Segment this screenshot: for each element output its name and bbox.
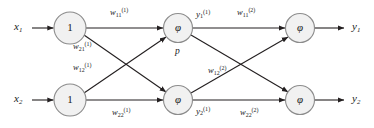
input-x1: x1 — [14, 21, 22, 34]
bias-node-bottom-label: 1 — [60, 93, 80, 105]
edge-bias-bottom-to-hidden-top — [84, 37, 166, 93]
hidden-node-top-label: φ — [168, 21, 188, 33]
output-node-bottom-label: φ — [290, 93, 310, 105]
output-node-top-label: φ — [290, 21, 310, 33]
hidden-output-y2: y2(1) — [196, 106, 210, 117]
input-x2: x2 — [14, 93, 22, 106]
annotation-p: p — [175, 47, 180, 57]
weight-w12-layer1: w12(1) — [73, 63, 92, 74]
weight-w22-layer1: w22(1) — [112, 108, 131, 119]
weight-w11-layer2: w11(2) — [237, 8, 255, 19]
edge-bias-top-to-hidden-bottom — [84, 35, 166, 92]
neural-network-diagram: x1 x2 1 1 φ φ φ φ w11(1) w21(1) w12(1) w… — [0, 0, 374, 128]
edge-hidden-top-to-output-bottom — [191, 35, 288, 92]
weight-w21-layer1: w21(1) — [73, 42, 92, 53]
edge-hidden-bottom-to-output-top — [191, 37, 288, 93]
network-graph-canvas — [0, 0, 374, 128]
weight-w22-layer2: w22(2) — [240, 108, 259, 119]
weight-w11-layer1: w11(1) — [110, 8, 128, 19]
hidden-output-y1: y1(1) — [196, 9, 210, 20]
bias-node-top-label: 1 — [60, 21, 80, 33]
output-y2: y2 — [352, 93, 360, 106]
output-y1: y1 — [352, 21, 360, 34]
hidden-node-bottom-label: φ — [168, 93, 188, 105]
weight-w12-layer2: w12(2) — [208, 66, 227, 77]
